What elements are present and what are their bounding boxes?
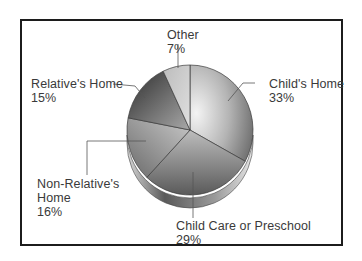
label-non-relatives-home-name-1: Non-Relative's xyxy=(37,177,119,191)
label-relatives-home: Relative's Home 15% xyxy=(31,77,123,105)
label-child-care-pct: 29% xyxy=(176,233,311,247)
label-childs-home: Child's Home 33% xyxy=(269,77,344,105)
label-child-care-name: Child Care or Preschool xyxy=(176,219,311,233)
label-non-relatives-home-pct: 16% xyxy=(37,205,119,219)
label-other-name: Other xyxy=(167,28,199,42)
label-childs-home-name: Child's Home xyxy=(269,77,344,91)
label-relatives-home-pct: 15% xyxy=(31,91,123,105)
label-relatives-home-name: Relative's Home xyxy=(31,77,123,91)
pie-slices xyxy=(127,65,253,195)
label-other-pct: 7% xyxy=(167,42,199,56)
label-childs-home-pct: 33% xyxy=(269,91,344,105)
label-non-relatives-home: Non-Relative's Home 16% xyxy=(37,177,119,219)
label-other: Other 7% xyxy=(167,28,199,56)
label-non-relatives-home-name-2: Home xyxy=(37,191,119,205)
label-child-care: Child Care or Preschool 29% xyxy=(176,219,311,247)
